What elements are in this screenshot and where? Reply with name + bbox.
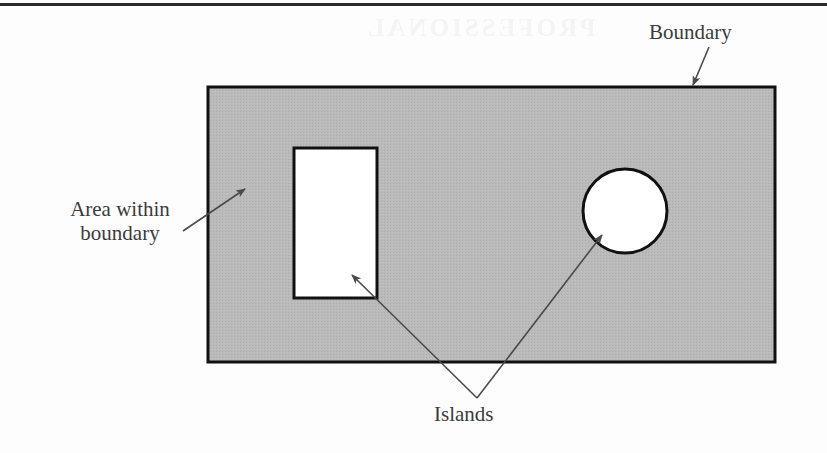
label-area-line2: boundary (30, 221, 210, 245)
label-islands: Islands (434, 402, 494, 426)
label-area-line1: Area within (30, 197, 210, 221)
diagram-page: PROFESSIONAL Boundary (0, 0, 827, 453)
boundary-leader-arrow (693, 47, 709, 85)
rectangular-island (294, 148, 377, 298)
label-boundary: Boundary (649, 20, 732, 44)
circular-island (583, 169, 667, 253)
label-area-within-boundary: Area within boundary (30, 197, 210, 245)
